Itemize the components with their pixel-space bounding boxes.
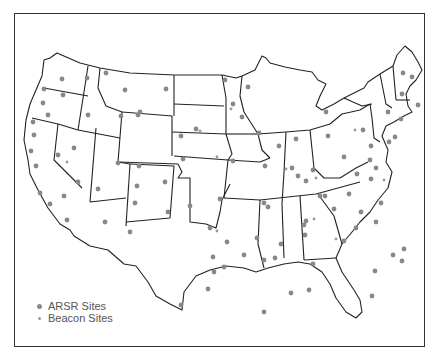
arsr-site-dot xyxy=(373,269,378,274)
arsr-site-dot xyxy=(255,236,260,241)
arsr-site-dot xyxy=(368,158,373,163)
arsr-site-dot xyxy=(318,194,323,199)
arsr-site-dot xyxy=(347,192,352,197)
arsr-site-dot xyxy=(262,201,267,206)
beacon-site-dot xyxy=(315,177,318,180)
arsr-site-dot xyxy=(400,92,405,97)
arsr-site-dot xyxy=(304,179,309,184)
arsr-site-dot xyxy=(393,135,398,140)
arsr-site-dot xyxy=(342,155,347,160)
arsr-site-dot xyxy=(211,255,216,260)
arsr-site-dot xyxy=(42,87,47,92)
arsr-site-dot xyxy=(324,110,329,115)
arsr-site-dot xyxy=(179,303,184,308)
beacon-site-dot xyxy=(216,156,219,159)
arsr-site-dot xyxy=(116,161,121,166)
arsr-site-dot xyxy=(222,265,227,270)
arsr-site-dot xyxy=(354,226,359,231)
arsr-site-dot xyxy=(194,127,199,132)
arsr-site-dot xyxy=(181,157,186,162)
large-dot-icon xyxy=(37,304,42,309)
arsr-site-dot xyxy=(361,128,366,133)
arsr-site-dot xyxy=(166,210,171,215)
beacon-site-dot xyxy=(66,161,69,164)
arsr-site-dot xyxy=(138,110,143,115)
arsr-site-dot xyxy=(326,134,331,139)
arsr-site-dot xyxy=(61,93,66,98)
arsr-site-dot xyxy=(231,102,236,107)
arsr-site-dot xyxy=(212,270,217,275)
arsr-site-dot xyxy=(218,197,223,202)
legend-label-beacon: Beacon Sites xyxy=(48,312,113,324)
arsr-site-dot xyxy=(225,240,230,245)
arsr-site-dot xyxy=(62,194,67,199)
arsr-site-dot xyxy=(32,133,37,138)
arsr-site-dot xyxy=(416,103,421,108)
legend-item-arsr: ARSR Sites xyxy=(36,300,113,312)
arsr-site-dot xyxy=(65,218,70,223)
beacon-site-dot xyxy=(230,108,233,111)
arsr-site-dot xyxy=(208,226,213,231)
arsr-site-dot xyxy=(307,288,312,293)
arsr-site-dot xyxy=(289,291,294,296)
arsr-site-dot xyxy=(311,262,316,267)
arsr-site-dot xyxy=(263,164,268,169)
arsr-site-dot xyxy=(379,201,384,206)
arsr-site-dot xyxy=(188,204,193,209)
arsr-site-dot xyxy=(240,115,245,120)
legend-item-beacon: Beacon Sites xyxy=(36,312,113,324)
arsr-site-dot xyxy=(400,259,405,264)
arsr-site-dot xyxy=(304,219,309,224)
small-dot-icon xyxy=(38,317,41,320)
arsr-site-dot xyxy=(279,242,284,247)
arsr-site-dot xyxy=(41,101,46,106)
arsr-site-dot xyxy=(163,180,168,185)
arsr-site-dot xyxy=(410,75,415,80)
arsr-site-dot xyxy=(206,287,211,292)
arsr-site-dot xyxy=(34,164,39,169)
arsr-site-dot xyxy=(262,310,267,315)
beacon-site-dot xyxy=(383,179,386,182)
beacon-site-dot xyxy=(216,230,219,233)
map-legend: ARSR Sites Beacon Sites xyxy=(36,300,113,324)
arsr-site-dot xyxy=(290,166,295,171)
arsr-site-dot xyxy=(56,153,61,158)
arsr-site-dot xyxy=(387,140,392,145)
arsr-site-dot xyxy=(128,230,133,235)
arsr-site-dot xyxy=(104,71,109,76)
beacon-site-dot xyxy=(335,238,338,241)
beacon-site-dot xyxy=(354,129,357,132)
arsr-site-dot xyxy=(123,88,128,93)
arsr-site-dot xyxy=(48,202,53,207)
arsr-site-dot xyxy=(342,239,347,244)
arsr-site-dot xyxy=(355,172,360,177)
arsr-site-dot xyxy=(266,205,271,210)
arsr-site-dot xyxy=(38,191,43,196)
arsr-site-dot xyxy=(273,256,278,261)
arsr-site-dot xyxy=(374,166,379,171)
arsr-site-dot xyxy=(303,233,308,238)
arsr-site-dot xyxy=(46,113,51,118)
arsr-site-dot xyxy=(401,71,406,76)
arsr-site-dot xyxy=(294,137,299,142)
arsr-site-dot xyxy=(72,146,77,151)
arsr-site-dot xyxy=(246,85,251,90)
arsr-site-dot xyxy=(133,201,138,206)
arsr-site-dot xyxy=(369,177,374,182)
arsr-site-dot xyxy=(29,149,34,154)
arsr-site-dot xyxy=(386,110,391,115)
arsr-site-dot xyxy=(96,187,101,192)
beacon-site-dot xyxy=(313,218,316,221)
arsr-site-dot xyxy=(332,207,337,212)
arsr-site-dot xyxy=(262,258,267,263)
arsr-site-dot xyxy=(399,117,404,122)
arsr-site-dot xyxy=(370,294,375,299)
arsr-site-dot xyxy=(60,77,65,82)
arsr-site-dot xyxy=(323,194,328,199)
arsr-site-dot xyxy=(257,131,262,136)
arsr-site-dot xyxy=(164,87,169,92)
beacon-site-dot xyxy=(285,168,288,171)
arsr-site-dot xyxy=(277,144,282,149)
arsr-site-dot xyxy=(223,78,228,83)
arsr-site-dot xyxy=(359,210,364,215)
